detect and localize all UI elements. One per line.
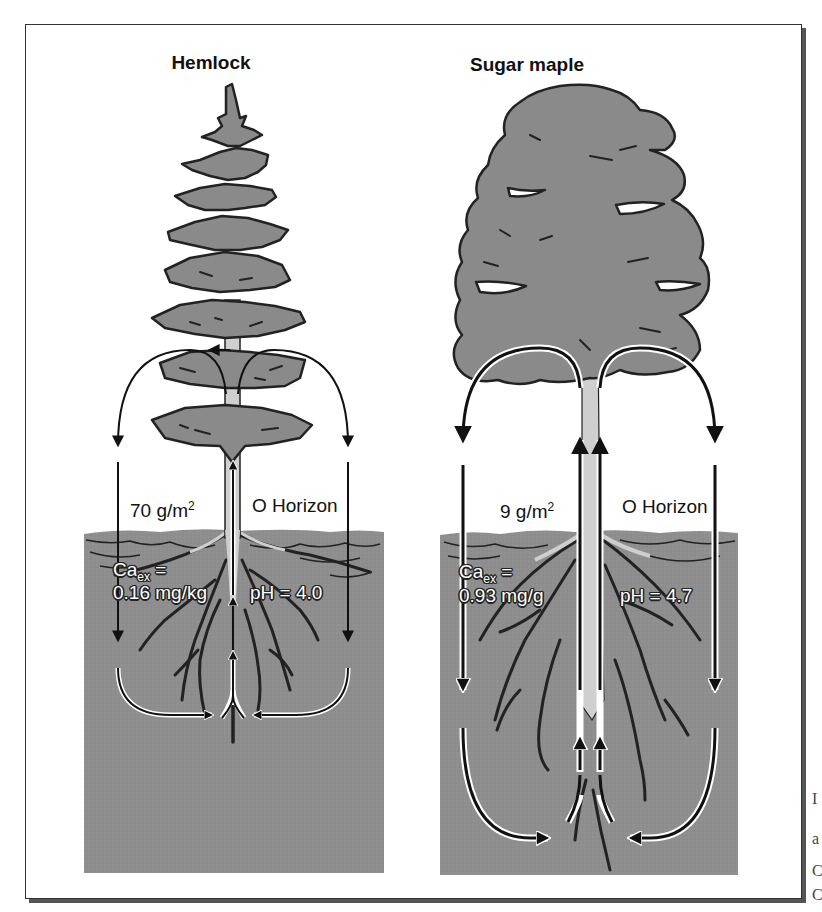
sugar-maple-ca-value: 0.93 mg/g (459, 586, 544, 606)
hemlock-litterfall-label: 70 g/m2 (130, 496, 195, 521)
sugar-maple-horizon-label: O Horizon (622, 497, 708, 517)
hemlock-ca-value: 0.16 mg/kg (113, 583, 207, 603)
hemlock-ph-label: pH = 4.0 (250, 583, 322, 603)
edge-bleed-text: I a C C (812, 0, 822, 912)
sugar-maple-panel (440, 85, 738, 875)
hemlock-panel (84, 84, 384, 873)
sugar-maple-ph-label: pH = 4.7 (620, 586, 692, 606)
sugar-maple-title: Sugar maple (470, 54, 584, 76)
hemlock-title: Hemlock (171, 52, 250, 74)
nutrient-cycling-diagram (0, 0, 822, 912)
sugar-maple-litterfall-label: 9 g/m2 (500, 497, 554, 522)
hemlock-horizon-label: O Horizon (252, 496, 338, 516)
